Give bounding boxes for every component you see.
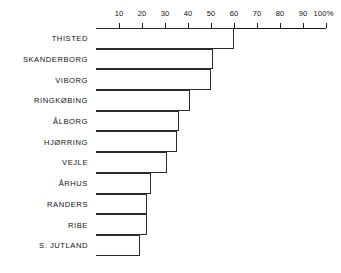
- bar: [96, 28, 234, 49]
- bar-row: THISTED: [0, 28, 341, 49]
- bar: [96, 111, 179, 132]
- bar-row: VIBORG: [0, 69, 341, 90]
- x-axis-tick-label: 100%: [314, 9, 334, 18]
- bar-category-label: RINGKØBING: [34, 96, 88, 105]
- bar: [96, 49, 213, 70]
- bar-row: ÅLBORG: [0, 111, 341, 132]
- bar-category-label: VIBORG: [55, 75, 88, 84]
- x-axis-tick-label: 50: [207, 9, 216, 18]
- bar: [96, 194, 147, 215]
- x-axis-tick-label: 10: [115, 9, 124, 18]
- bar-category-label: SKANDERBORG: [23, 55, 88, 64]
- bar-row: S. JUTLAND: [0, 235, 341, 256]
- bar-category-label: S. JUTLAND: [39, 241, 88, 250]
- x-axis-tick-label: 40: [184, 9, 193, 18]
- bar-chart: 102030405060708090100% THISTEDSKANDERBOR…: [0, 0, 341, 273]
- bar: [96, 90, 190, 111]
- x-axis-tick-label: 60: [230, 9, 239, 18]
- bar-row: VEJLE: [0, 152, 341, 173]
- bar: [96, 131, 177, 152]
- bar: [96, 173, 151, 194]
- bar-row: SKANDERBORG: [0, 49, 341, 70]
- bar-category-label: RANDERS: [47, 199, 88, 208]
- bar-row: RANDERS: [0, 194, 341, 215]
- bar-category-label: RIBE: [68, 220, 88, 229]
- bar: [96, 69, 211, 90]
- bar-category-label: THISTED: [52, 34, 88, 43]
- x-axis-tick-label: 20: [138, 9, 147, 18]
- bar-category-label: HJØRRING: [44, 137, 88, 146]
- x-axis-tick-label: 70: [253, 9, 262, 18]
- x-axis-tick-label: 30: [161, 9, 170, 18]
- bar-row: ÅRHUS: [0, 173, 341, 194]
- bar-row: RINGKØBING: [0, 90, 341, 111]
- x-axis-tick-label: 80: [276, 9, 285, 18]
- x-axis-tick-label: 90: [299, 9, 308, 18]
- bar: [96, 152, 167, 173]
- bar-category-label: VEJLE: [62, 158, 88, 167]
- bar: [96, 214, 147, 235]
- bar-series: THISTEDSKANDERBORGVIBORGRINGKØBINGÅLBORG…: [0, 28, 341, 256]
- bar-category-label: ÅRHUS: [59, 179, 88, 188]
- bar-row: HJØRRING: [0, 131, 341, 152]
- bar-row: RIBE: [0, 214, 341, 235]
- bar: [96, 235, 140, 256]
- bar-category-label: ÅLBORG: [53, 117, 88, 126]
